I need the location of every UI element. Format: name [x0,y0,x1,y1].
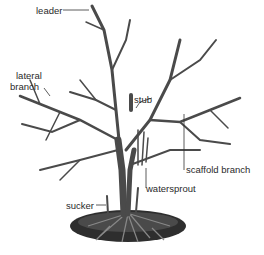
scaffold-branch-label: scaffold branch [186,164,250,175]
lateral-branch-callout-line [44,88,50,96]
sucker-label: sucker [66,200,94,211]
lateral-branch-label-line2: branch [10,81,39,92]
tree-diagram: leader lateral branch stub scaffold bran… [0,0,264,255]
trunk-and-branches [20,6,240,214]
watersprout-label: watersprout [146,183,196,194]
tree-illustration [0,0,264,255]
lateral-branch-label-line1: lateral [16,70,42,81]
stub-label: stub [134,94,152,105]
leader-label: leader [36,5,62,16]
